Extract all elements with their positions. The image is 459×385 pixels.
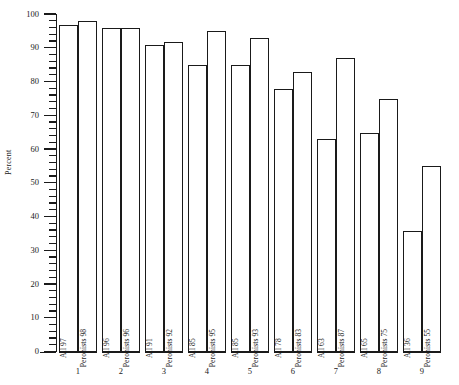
- y-axis-minor-tick: [49, 256, 56, 257]
- group-baseline: [403, 351, 442, 352]
- y-axis-minor-tick: [49, 202, 56, 203]
- group-baseline: [59, 351, 98, 352]
- bar-label-text: Peronists 87: [337, 329, 346, 368]
- bar-label: Peronists 92: [165, 329, 174, 368]
- y-axis-major-tick: [44, 317, 56, 318]
- bar-label: All 65: [360, 338, 369, 358]
- bar-label-text: All 85: [231, 338, 240, 358]
- y-axis-major-tick: [44, 283, 56, 284]
- x-axis-tick-label: 6: [274, 366, 313, 376]
- y-axis-tick-label: 60: [0, 145, 39, 154]
- y-axis-major-tick: [44, 47, 56, 48]
- group-baseline: [145, 351, 184, 352]
- y-axis-minor-tick: [49, 310, 56, 311]
- y-axis-major-tick: [44, 250, 56, 251]
- bar-label: All 85: [188, 338, 197, 358]
- y-axis-minor-tick: [49, 61, 56, 62]
- y-axis-major-tick: [44, 216, 56, 217]
- bar: All 91: [145, 45, 164, 352]
- x-axis-tick-label: 5: [231, 366, 270, 376]
- y-axis-minor-tick: [49, 155, 56, 156]
- bar: Peronists 95: [207, 31, 226, 352]
- y-axis-minor-tick: [49, 74, 56, 75]
- group-baseline: [317, 351, 356, 352]
- y-axis-minor-tick: [49, 101, 56, 102]
- bar: All 65: [360, 133, 379, 352]
- bar: All 85: [231, 65, 250, 352]
- y-axis-minor-tick: [49, 135, 56, 136]
- bar-label-text: Peronists 95: [208, 329, 217, 368]
- bar: Peronists 93: [250, 38, 269, 352]
- y-axis-minor-tick: [49, 54, 56, 55]
- y-axis-minor-tick: [49, 263, 56, 264]
- bar: Peronists 55: [422, 166, 441, 352]
- bar-label: Peronists 95: [208, 329, 217, 368]
- bar-label: Peronists 75: [380, 329, 389, 368]
- bar-label-text: All 97: [59, 338, 68, 358]
- y-axis-minor-tick: [49, 142, 56, 143]
- y-axis-minor-tick: [49, 324, 56, 325]
- y-axis-minor-tick: [49, 88, 56, 89]
- bar-label: All 96: [102, 338, 111, 358]
- y-axis-major-tick: [44, 13, 56, 14]
- y-axis-minor-tick: [49, 236, 56, 237]
- group-baseline: [231, 351, 270, 352]
- x-axis-tick-label: 1: [59, 366, 98, 376]
- x-axis-tick-label: 8: [360, 366, 399, 376]
- y-axis-tick-label: 10: [0, 313, 39, 322]
- bar-label-text: All 78: [274, 338, 283, 358]
- x-axis-tick-label: 4: [188, 366, 227, 376]
- bar-label-text: All 36: [403, 338, 412, 358]
- bar: Peronists 75: [379, 99, 398, 352]
- y-axis-tick-label: 0: [0, 347, 39, 356]
- plot-area: All 97Peronists 98All 96Peronists 96All …: [56, 0, 459, 385]
- bar-label: All 85: [231, 338, 240, 358]
- y-axis-minor-tick: [49, 277, 56, 278]
- bar-label: Peronists 55: [423, 329, 432, 368]
- y-axis-tick-label: 80: [0, 77, 39, 86]
- bar: All 36: [403, 231, 422, 353]
- bar-label-text: Peronists 55: [423, 329, 432, 368]
- bar: All 85: [188, 65, 207, 352]
- y-axis-minor-tick: [49, 162, 56, 163]
- x-axis-tick-label: 2: [102, 366, 141, 376]
- y-axis-minor-tick: [49, 243, 56, 244]
- y-axis-minor-tick: [49, 297, 56, 298]
- y-axis-minor-tick: [49, 344, 56, 345]
- bar-label-text: All 96: [102, 338, 111, 358]
- y-axis-minor-tick: [49, 223, 56, 224]
- y-axis-minor-tick: [49, 121, 56, 122]
- bar: All 63: [317, 139, 336, 352]
- y-axis-minor-tick: [49, 270, 56, 271]
- y-axis-tick-label: 40: [0, 212, 39, 221]
- group-baseline: [274, 351, 313, 352]
- bar-label: All 91: [145, 338, 154, 358]
- bar: Peronists 87: [336, 58, 355, 352]
- x-axis-origin-line: [40, 352, 56, 353]
- y-axis-minor-tick: [49, 27, 56, 28]
- y-axis-minor-tick: [49, 331, 56, 332]
- y-axis-major-tick: [44, 81, 56, 82]
- bar: Peronists 92: [164, 42, 183, 353]
- y-axis-major-tick: [44, 182, 56, 183]
- bar: All 97: [59, 25, 78, 352]
- bar: All 78: [274, 89, 293, 352]
- y-axis-major-tick: [44, 115, 56, 116]
- bar-label-text: Peronists 93: [251, 329, 260, 368]
- bar-label: Peronists 96: [122, 329, 131, 368]
- y-axis-tick-label: 50: [0, 178, 39, 187]
- y-axis-minor-tick: [49, 20, 56, 21]
- y-axis-minor-tick: [49, 67, 56, 68]
- bar-label-text: All 65: [360, 338, 369, 358]
- bar: Peronists 96: [121, 28, 140, 352]
- y-axis-tick-label: 30: [0, 246, 39, 255]
- bar: All 96: [102, 28, 121, 352]
- y-axis-minor-tick: [49, 34, 56, 35]
- y-axis-minor-tick: [49, 169, 56, 170]
- bar-label-text: All 91: [145, 338, 154, 358]
- bar-label: Peronists 87: [337, 329, 346, 368]
- y-axis-tick-label: 100: [0, 10, 39, 19]
- group-baseline: [188, 351, 227, 352]
- bar: Peronists 98: [78, 21, 97, 352]
- y-axis-tick-label: 20: [0, 280, 39, 289]
